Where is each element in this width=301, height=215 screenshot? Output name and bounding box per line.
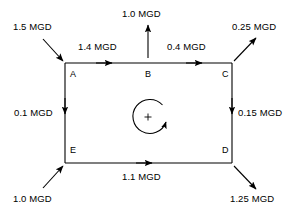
flow-label-a-to-b: 1.4 MGD <box>78 41 117 52</box>
node-label-e: E <box>70 145 76 155</box>
flow-label-b-to-c: 0.4 MGD <box>167 41 206 52</box>
arrow-outflow-at-d <box>234 166 256 189</box>
flow-label-a-to-e: 0.1 MGD <box>14 107 53 118</box>
external-label-inflow-at-e: 1.0 MGD <box>13 193 52 204</box>
pipe-network-diagram: A B C D E 1.4 MGD 0.4 MGD 0.1 MGD 0.15 M… <box>0 0 301 215</box>
flow-label-e-to-d: 1.1 MGD <box>122 171 161 182</box>
external-label-outflow-at-c: 0.25 MGD <box>232 21 276 32</box>
external-flow-arrows <box>43 25 256 189</box>
loop-circulation-indicator <box>133 99 166 133</box>
arrow-outflow-at-c <box>234 38 256 61</box>
circular-arrow-clockwise-icon <box>133 99 166 133</box>
external-label-outflow-at-d: 1.25 MGD <box>230 193 274 204</box>
node-label-b: B <box>145 69 151 79</box>
node-label-a: A <box>70 69 76 79</box>
external-label-inflow-at-a: 1.5 MGD <box>13 21 52 32</box>
external-label-outflow-at-b: 1.0 MGD <box>122 8 161 19</box>
arrow-inflow-at-e <box>43 166 63 188</box>
node-label-c: C <box>222 69 229 79</box>
node-label-d: D <box>222 145 229 155</box>
arrow-inflow-at-a <box>43 39 63 61</box>
flow-label-c-to-d: 0.15 MGD <box>238 107 282 118</box>
plus-icon <box>145 114 152 121</box>
